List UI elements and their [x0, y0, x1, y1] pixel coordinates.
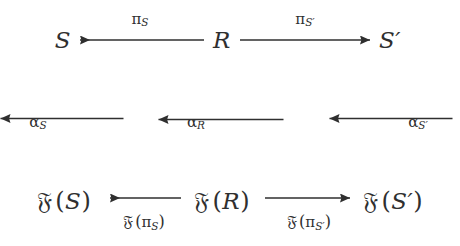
pi-S-prime-subscript: S′: [305, 16, 315, 28]
pi-glyph: π: [295, 10, 305, 28]
alpha-R-arrow-label: αR: [187, 113, 205, 132]
node-bottom-right-argument: S′: [391, 188, 413, 214]
open-paren: (: [55, 187, 65, 215]
pi-S-prime-subscript: S′: [315, 220, 325, 232]
alpha-R-subscript: R: [197, 119, 205, 131]
node-top-right-S-prime: S′: [379, 27, 401, 53]
node-bottom-middle-functor-R: 𝔉(R): [194, 187, 250, 215]
pi-S-prime-arrow-label: πS′: [295, 10, 314, 29]
node-bottom-middle-argument: R: [222, 188, 240, 214]
pi-S-arrow-label: πS: [131, 10, 148, 29]
alpha-S-subscript: S: [39, 119, 46, 131]
pi-S-subscript: S: [141, 16, 148, 28]
close-paren: ): [159, 212, 165, 231]
close-paren: ): [81, 187, 91, 215]
pi-glyph: π: [305, 213, 315, 231]
node-top-left-S: S: [55, 27, 71, 53]
node-top-right-label: S′: [379, 27, 401, 53]
open-paren: (: [212, 187, 222, 215]
close-paren: ): [413, 187, 423, 215]
pi-glyph: π: [131, 10, 141, 28]
node-top-middle-label: R: [213, 27, 231, 53]
node-bottom-left-functor-S: 𝔉(S): [37, 187, 92, 215]
node-top-left-label: S: [55, 27, 71, 53]
fraktur-F-icon: 𝔉: [194, 187, 213, 215]
alpha-glyph: α: [187, 113, 197, 131]
close-paren: ): [325, 212, 331, 231]
alpha-S-prime-arrow-label: αS′: [408, 113, 428, 132]
node-bottom-right-functor-S-prime: 𝔉(S′): [363, 187, 423, 215]
fraktur-F-icon: 𝔉: [363, 187, 382, 215]
alpha-glyph: α: [408, 113, 418, 131]
fraktur-F-icon: 𝔉: [37, 187, 56, 215]
alpha-glyph: α: [29, 113, 39, 131]
open-paren: (: [381, 187, 391, 215]
node-bottom-left-argument: S: [65, 188, 81, 214]
pi-glyph: π: [141, 213, 151, 231]
fraktur-F-icon: 𝔉: [123, 212, 135, 231]
commutative-diagram: S R S′ 𝔉(S) 𝔉(R) 𝔉(S′) πS πS′ αS αR αS′ …: [0, 0, 460, 246]
fraktur-F-icon: 𝔉: [287, 212, 299, 231]
functor-pi-S-arrow-label: 𝔉(πS): [123, 212, 165, 232]
alpha-S-prime-subscript: S′: [418, 119, 428, 131]
alpha-S-arrow-label: αS: [29, 113, 46, 132]
functor-pi-S-prime-arrow-label: 𝔉(πS′): [287, 212, 331, 232]
node-top-middle-R: R: [213, 27, 231, 53]
close-paren: ): [240, 187, 250, 215]
